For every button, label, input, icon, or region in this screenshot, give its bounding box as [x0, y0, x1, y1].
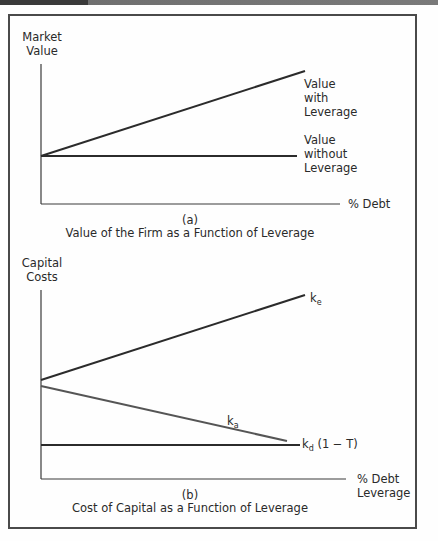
suffix: (1 − T) — [314, 437, 358, 451]
k-e-label: ke — [310, 291, 322, 307]
label-line: Leverage — [304, 105, 357, 119]
subscript: e — [317, 298, 322, 307]
k-a-label: ka — [227, 414, 239, 430]
subscript: d — [309, 444, 314, 453]
figure-a-plot — [41, 64, 340, 204]
y-label-line1: Capital — [21, 256, 63, 270]
x-label-line2: Leverage — [357, 486, 410, 500]
label-line: Value — [304, 77, 357, 91]
label-line: without — [304, 147, 357, 161]
y-label-line1: Market — [22, 30, 62, 44]
value-with-leverage-label: Value with Leverage — [304, 77, 357, 119]
symbol: k — [302, 437, 309, 451]
figure-a-y-axis-label: Market Value — [22, 30, 62, 58]
label-line: Leverage — [304, 161, 357, 175]
figure-b-x-axis-label: % Debt Leverage — [357, 472, 410, 500]
figure-a-panel-letter: (a) — [40, 213, 340, 227]
k-e-line — [41, 295, 305, 380]
figure-a-x-axis-label: % Debt — [348, 197, 390, 211]
value-with-leverage-line — [41, 71, 305, 156]
value-without-leverage-label: Value without Leverage — [304, 133, 357, 175]
label-line: Value — [304, 133, 357, 147]
x-label-line1: % Debt — [357, 472, 410, 486]
k-a-line — [41, 386, 287, 441]
label-line: with — [304, 91, 357, 105]
symbol: k — [227, 414, 234, 428]
y-label-line2: Value — [22, 44, 62, 58]
figure-b-panel-letter: (b) — [40, 488, 340, 502]
symbol: k — [310, 291, 317, 305]
y-label-line2: Costs — [21, 270, 63, 284]
figure-a-caption: Value of the Firm as a Function of Lever… — [40, 226, 340, 240]
diagram-canvas — [0, 0, 438, 541]
figure-b-plot — [41, 290, 346, 479]
k-d-label: kd (1 − T) — [302, 437, 358, 453]
figure-b-caption: Cost of Capital as a Function of Leverag… — [40, 501, 340, 515]
subscript: a — [234, 421, 239, 430]
figure-b-y-axis-label: Capital Costs — [21, 256, 63, 284]
